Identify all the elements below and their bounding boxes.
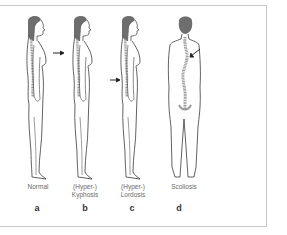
label-scoliosis: Scoliosis (171, 183, 197, 191)
panel-letter-a: a (34, 203, 39, 213)
panel-letter-b: b (82, 203, 88, 213)
figure-kyphosis (73, 16, 92, 179)
figure-lordosis (121, 16, 140, 179)
arrow-kyphosis-icon (53, 51, 64, 55)
figure-normal (27, 16, 46, 179)
label-line1: Scoliosis (171, 183, 197, 191)
panel-letter-c: c (129, 203, 134, 213)
figure-scoliosis (168, 17, 200, 178)
label-line2: Kyphosis (72, 191, 98, 199)
label-lordosis: (Hyper-) Lordosis (121, 183, 146, 199)
label-line1: (Hyper-) (121, 183, 146, 191)
label-line1: (Hyper-) (72, 183, 98, 191)
label-line1: Normal (28, 183, 49, 191)
spine-posture-illustration (0, 0, 287, 235)
label-normal: Normal (28, 183, 49, 191)
label-kyphosis: (Hyper-) Kyphosis (72, 183, 98, 199)
panel-letter-d: d (176, 203, 182, 213)
label-line2: Lordosis (121, 191, 146, 199)
arrow-lordosis-icon (110, 78, 120, 82)
arrow-scoliosis-icon (190, 49, 200, 57)
